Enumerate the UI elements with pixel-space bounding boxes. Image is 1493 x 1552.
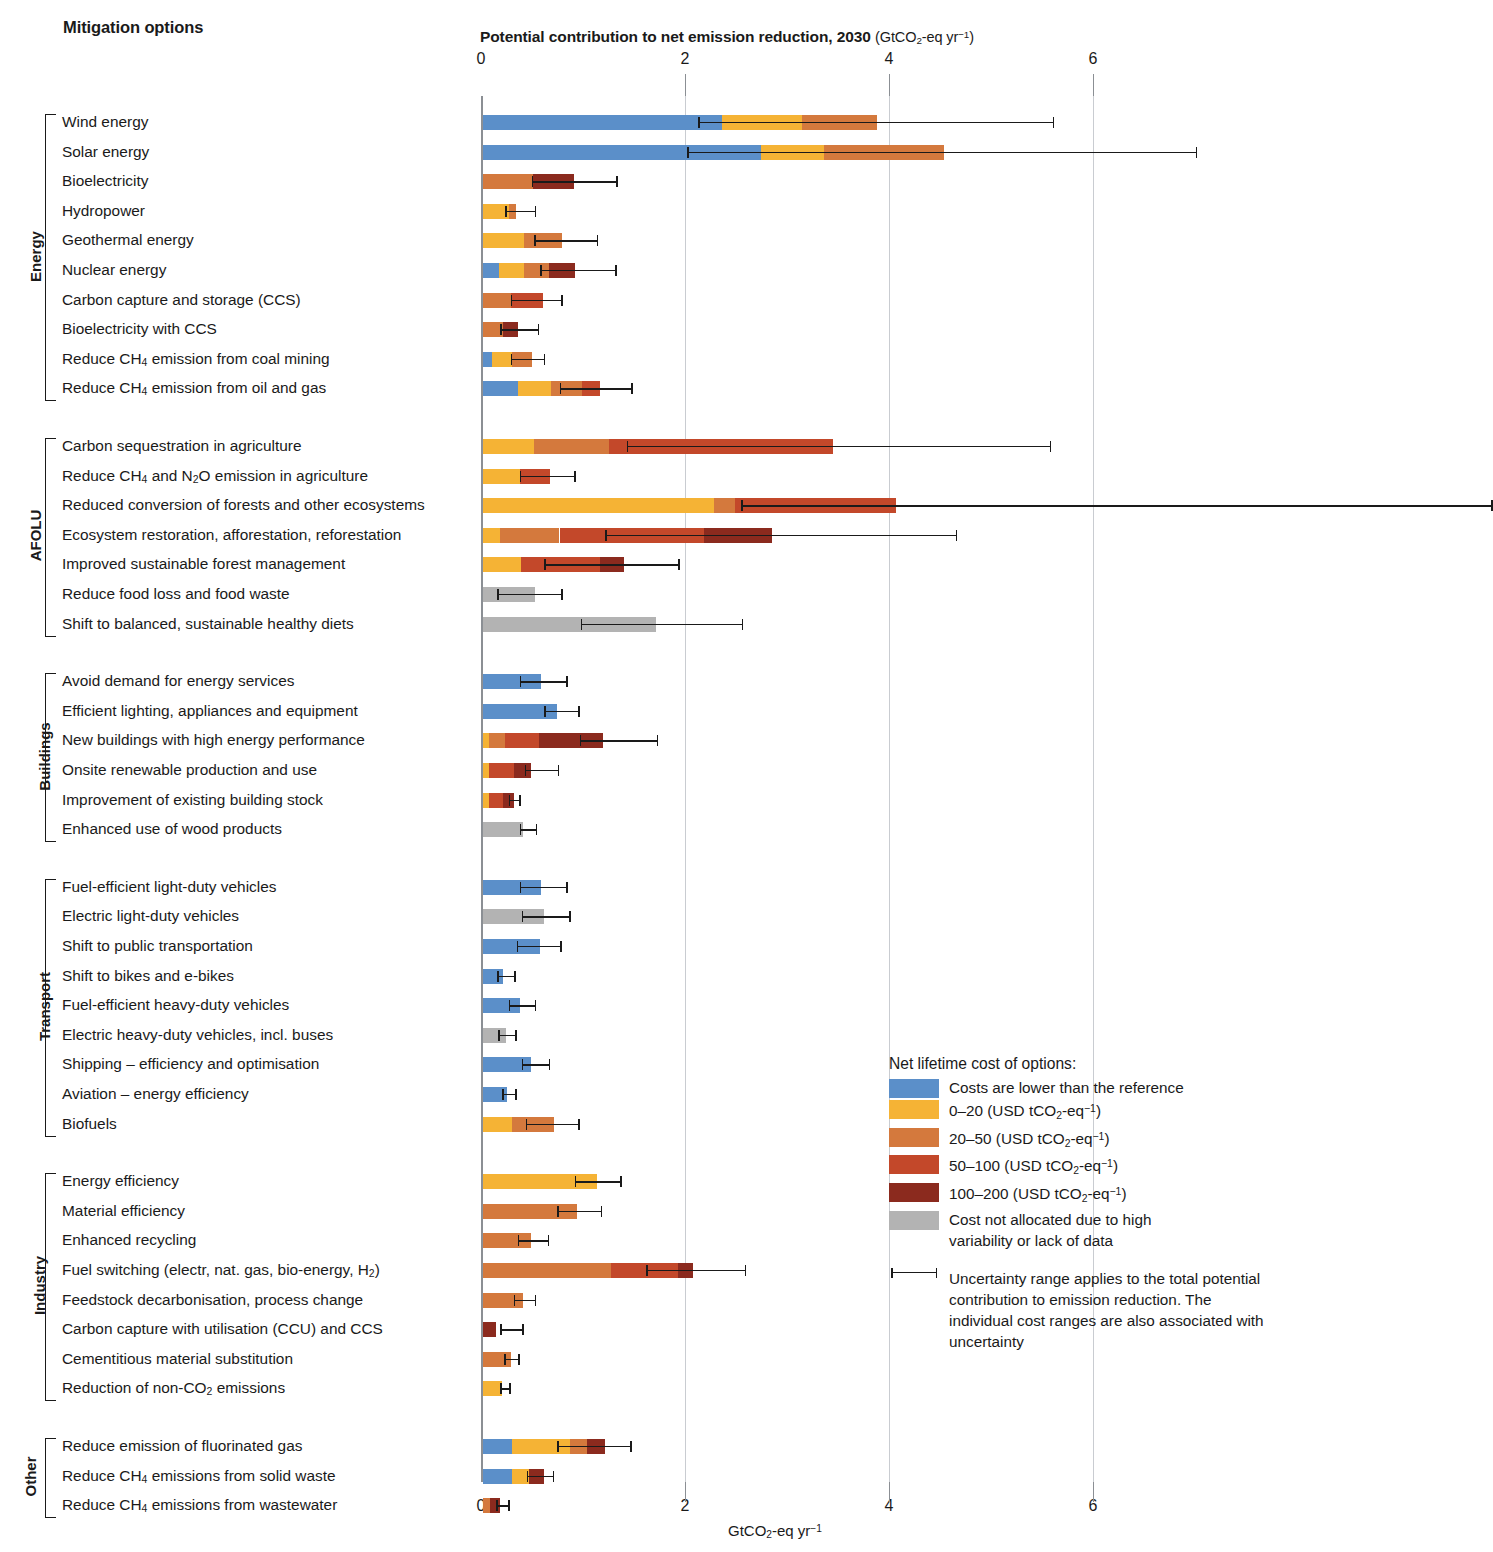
legend-item[interactable]: 0–20 (USD tCO2-eq−1): [889, 1099, 1264, 1126]
x-tick-label-6: 6: [1089, 50, 1098, 68]
row-labels-column: Wind energySolar energyBioelectricityHyd…: [0, 96, 481, 1482]
legend-swatch: [889, 1183, 939, 1202]
option-label: Biofuels: [62, 1116, 117, 1132]
legend-label: Costs are lower than the reference: [949, 1078, 1264, 1098]
group-name-afolu: AFOLU: [10, 527, 62, 544]
bar-segment: [489, 793, 503, 808]
bar-segment: [483, 1469, 512, 1484]
uncertainty-range: [497, 589, 562, 600]
option-label: Aviation – energy efficiency: [62, 1086, 249, 1102]
x-tick-label-0: 0: [477, 50, 486, 68]
option-label: Improvement of existing building stock: [62, 792, 323, 808]
uncertainty-range: [580, 735, 659, 746]
option-label: New buildings with high energy performan…: [62, 732, 365, 748]
uncertainty-range: [646, 1265, 746, 1276]
option-label: Reduce emission of fluorinated gas: [62, 1438, 302, 1454]
bar-segment: [714, 498, 735, 513]
uncertainty-range: [698, 117, 1054, 128]
option-label: Shift to public transportation: [62, 938, 253, 954]
uncertainty-range: [540, 265, 617, 276]
legend-item[interactable]: 50–100 (USD tCO2-eq−1): [889, 1154, 1264, 1181]
legend-label: Cost not allocated due to high: [949, 1210, 1264, 1230]
uncertainty-range: [505, 206, 536, 217]
axis-title-unit: (GtCO2-eq yr−1): [875, 29, 974, 45]
bar-segment: [483, 1498, 490, 1513]
mitigation-options-header: Mitigation options: [63, 18, 203, 37]
option-label: Energy efficiency: [62, 1173, 179, 1189]
bar-segment: [489, 763, 513, 778]
uncertainty-range: [520, 471, 576, 482]
uncertainty-range: [525, 765, 560, 776]
uncertainty-range: [514, 1295, 536, 1306]
uncertainty-range: [557, 1206, 602, 1217]
bar-segment: [483, 352, 492, 367]
option-label: Improved sustainable forest management: [62, 556, 345, 572]
bar-segment: [483, 263, 499, 278]
uncertainty-range: [520, 676, 568, 687]
bar-segment: [483, 498, 714, 513]
option-label: Shift to bikes and e-bikes: [62, 968, 234, 984]
x-tick-mark-bottom-6: [1093, 1482, 1094, 1502]
uncertainty-range: [498, 1030, 516, 1041]
bar-segment: [483, 1117, 512, 1132]
legend-swatch: [889, 1100, 939, 1119]
option-label: Solar energy: [62, 144, 149, 160]
option-label: Reduce CH4 emissions from wastewater: [62, 1497, 337, 1517]
uncertainty-range: [534, 235, 598, 246]
option-label: Reduce CH4 emission from oil and gas: [62, 380, 326, 400]
legend-swatch: [889, 1155, 939, 1174]
uncertainty-range: [518, 1235, 550, 1246]
bar-segment: [483, 174, 533, 189]
option-label: Bioelectricity with CCS: [62, 321, 217, 337]
legend-item[interactable]: Cost not allocated due to high: [889, 1210, 1264, 1230]
axis-title-main: Potential contribution to net emission r…: [480, 28, 871, 45]
option-label: Enhanced use of wood products: [62, 821, 282, 837]
uncertainty-range: [741, 500, 1493, 511]
option-label: Carbon sequestration in agriculture: [62, 438, 302, 454]
bar-segment: [483, 439, 534, 454]
uncertainty-range: [520, 882, 568, 893]
option-label: Carbon capture with utilisation (CCU) an…: [62, 1321, 383, 1337]
legend-label-continuation: variability or lack of data: [949, 1231, 1264, 1251]
option-label: Efficient lighting, appliances and equip…: [62, 703, 358, 719]
uncertainty-range: [560, 383, 633, 394]
option-label: Reduce CH4 emission from coal mining: [62, 351, 330, 371]
x-tick-mark-6: [1093, 74, 1094, 96]
uncertainty-note-text: Uncertainty range applies to the total p…: [949, 1268, 1264, 1352]
legend-item[interactable]: 100–200 (USD tCO2-eq−1): [889, 1182, 1264, 1209]
uncertainty-range: [544, 559, 680, 570]
uncertainty-range: [500, 324, 539, 335]
option-label: Onsite renewable production and use: [62, 762, 317, 778]
uncertainty-range: [527, 1471, 555, 1482]
option-label: Wind energy: [62, 114, 148, 130]
legend-label: 100–200 (USD tCO2-eq−1): [949, 1182, 1264, 1209]
group-name-buildings: Buildings: [10, 748, 78, 765]
option-label: Avoid demand for energy services: [62, 673, 294, 689]
uncertainty-range: [496, 1500, 509, 1511]
group-name-transport: Transport: [10, 998, 79, 1015]
uncertainty-range: [557, 1441, 631, 1452]
bar-segment: [483, 822, 523, 837]
uncertainty-range: [500, 1324, 523, 1335]
option-label: Reduced conversion of forests and other …: [62, 497, 425, 513]
bar-segment: [500, 528, 559, 543]
legend-label: 20–50 (USD tCO2-eq−1): [949, 1127, 1264, 1154]
uncertainty-range: [509, 1000, 537, 1011]
uncertainty-range: [497, 971, 515, 982]
uncertainty-range: [532, 176, 618, 187]
uncertainty-range: [504, 1354, 519, 1365]
option-label: Bioelectricity: [62, 173, 148, 189]
bar-segment: [483, 1263, 611, 1278]
bar-segment: [483, 557, 521, 572]
uncertainty-range: [544, 706, 580, 717]
uncertainty-range: [511, 295, 563, 306]
group-name-industry: Industry: [10, 1277, 69, 1294]
legend-item[interactable]: Costs are lower than the reference: [889, 1078, 1264, 1098]
bar-segment: [505, 733, 539, 748]
legend-swatch: [889, 1079, 939, 1098]
option-label: Feedstock decarbonisation, process chang…: [62, 1292, 363, 1308]
uncertainty-range: [526, 1119, 580, 1130]
legend-item[interactable]: 20–50 (USD tCO2-eq−1): [889, 1127, 1264, 1154]
option-label: Electric light-duty vehicles: [62, 908, 239, 924]
